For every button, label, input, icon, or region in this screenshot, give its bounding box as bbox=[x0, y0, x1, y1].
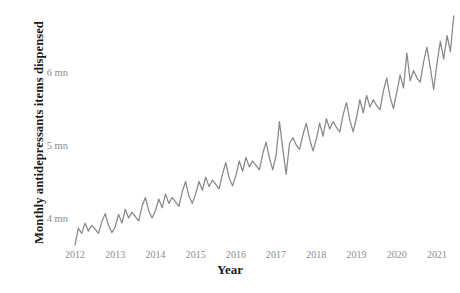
series-line bbox=[75, 16, 454, 245]
chart-figure: Monthly antidepressants items dispensed … bbox=[0, 0, 460, 293]
series-line-svg bbox=[0, 0, 460, 293]
plot-area bbox=[0, 0, 460, 293]
